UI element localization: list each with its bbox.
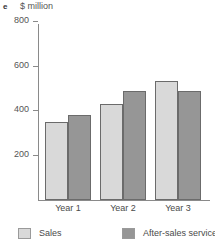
legend-label: Sales xyxy=(39,228,62,239)
bar xyxy=(155,81,178,200)
y-axis-line xyxy=(38,24,39,201)
chart-legend: Sales After-sales service xyxy=(0,226,215,242)
legend-swatch-icon xyxy=(18,228,31,239)
bar xyxy=(45,122,68,200)
y-axis-tick-label: 600 xyxy=(14,60,29,71)
legend-item-after-sales-service: After-sales service xyxy=(122,226,215,240)
y-axis-tick-label: 200 xyxy=(14,149,29,160)
y-axis-tick-label: 400 xyxy=(14,104,29,115)
legend-swatch-icon xyxy=(122,228,135,239)
y-axis-tick-label: 800 xyxy=(14,15,29,26)
bar-chart-figure: e $ million 200400600800 Year 1Year 2Yea… xyxy=(0,0,215,244)
axis-unit-title: $ million xyxy=(20,1,53,12)
x-axis-category-label: Year 2 xyxy=(94,203,152,214)
y-axis-tick: 400 xyxy=(33,110,38,111)
y-axis-tick: 800 xyxy=(33,21,38,22)
bar xyxy=(100,104,123,200)
x-axis-category-label: Year 1 xyxy=(39,203,97,214)
figure-panel-label: e xyxy=(3,2,7,12)
bar xyxy=(178,91,201,200)
legend-item-sales: Sales xyxy=(18,226,62,240)
bar xyxy=(123,91,146,200)
x-axis-category-label: Year 3 xyxy=(149,203,207,214)
legend-label: After-sales service xyxy=(143,228,215,239)
bar xyxy=(68,115,91,200)
y-axis-tick: 200 xyxy=(33,155,38,156)
plot-area: 200400600800 Year 1Year 2Year 3 xyxy=(38,22,210,201)
x-axis-line xyxy=(38,200,210,201)
y-axis-tick: 600 xyxy=(33,66,38,67)
